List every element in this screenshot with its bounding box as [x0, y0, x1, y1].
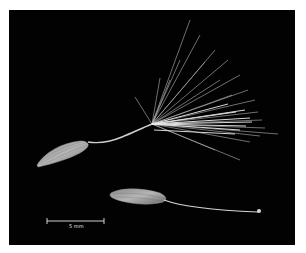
upper-seed-stalk [88, 124, 152, 143]
pappus-bristles [135, 20, 278, 160]
specimen-illustration [9, 10, 295, 245]
upper-seed-body [37, 141, 88, 167]
lower-seed-tip [257, 209, 261, 213]
lower-seed-stalk [164, 200, 258, 212]
specimen-photo [9, 10, 295, 245]
scale-bar-label: 5 mm [69, 223, 84, 229]
lower-seed-body [110, 189, 166, 204]
